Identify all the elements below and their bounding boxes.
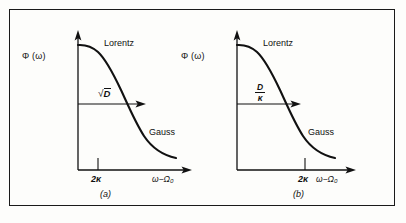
lineshape-curve-a — [78, 45, 176, 158]
halfwidth-annotation-b: D κ — [255, 83, 265, 103]
panel-caption-b: (b) — [293, 190, 304, 199]
lineshape-curve-b — [237, 45, 335, 158]
figure-container: Φ (ω) ω−Ω₀ 2κ Lorentz Gauss √D (a) — [0, 0, 406, 223]
figure-border-frame: Φ (ω) ω−Ω₀ 2κ Lorentz Gauss √D (a) — [9, 9, 395, 206]
x-axis-a — [78, 167, 192, 174]
x-axis-label-a: ω−Ω₀ — [152, 175, 174, 184]
halfwidth-symbol-a: D — [104, 88, 112, 99]
x-tick-label-2kappa-a: 2κ — [91, 175, 101, 184]
halfwidth-arrow-b — [237, 101, 301, 108]
y-axis-label-a: Φ (ω) — [22, 52, 46, 61]
gauss-region-label-a: Gauss — [149, 128, 175, 137]
x-axis-label-b: ω−Ω₀ — [316, 175, 338, 184]
halfwidth-annotation-a: √D — [98, 88, 111, 99]
y-axis-a — [75, 30, 82, 170]
halfwidth-arrow-a — [78, 101, 146, 108]
halfwidth-numerator-b: D — [255, 83, 265, 93]
lorentz-region-label-a: Lorentz — [104, 39, 134, 48]
gauss-region-label-b: Gauss — [308, 128, 334, 137]
halfwidth-denominator-b: κ — [255, 93, 265, 102]
y-axis-b — [234, 30, 241, 170]
plot-panel-a: Φ (ω) ω−Ω₀ 2κ Lorentz Gauss √D (a) — [10, 10, 203, 207]
panel-caption-a: (a) — [100, 190, 111, 199]
plot-panel-b: Φ (ω) ω−Ω₀ 2κ Lorentz Gauss D κ (b) — [203, 10, 396, 207]
y-axis-label-b: Φ (ω) — [181, 52, 205, 61]
x-tick-label-2kappa-b: 2κ — [298, 175, 308, 184]
lorentz-region-label-b: Lorentz — [263, 39, 293, 48]
x-axis-b — [237, 167, 356, 174]
